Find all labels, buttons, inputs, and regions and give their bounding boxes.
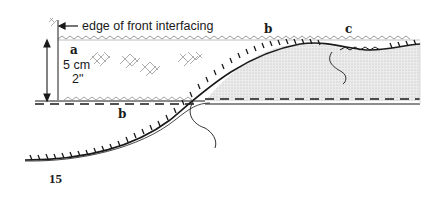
label-b-top: b: [264, 22, 272, 36]
sewing-diagram: edge of front interfacing a 5 cm 2" b c …: [0, 0, 439, 198]
figure-number: 15: [49, 171, 62, 187]
edge-pointer-arrow: [59, 23, 78, 29]
measurement-arrow: [44, 40, 50, 101]
label-b-bottom: b: [118, 107, 126, 121]
thread-tail-center: [190, 102, 216, 148]
label-a: a: [70, 43, 78, 57]
interfacing-hatch: [90, 52, 202, 76]
measurement-in-label: 2": [72, 72, 83, 86]
label-c: c: [345, 22, 352, 36]
diagram-illustration: [0, 0, 439, 198]
left-zigzag-stitch: [64, 97, 192, 100]
top-zigzag-stitch: [58, 36, 410, 39]
edge-of-front-interfacing-label: edge of front interfacing: [82, 19, 213, 33]
measurement-cm-label: 5 cm: [63, 58, 90, 72]
edge-hatch-mark: [49, 18, 57, 26]
facing-shaded-region: [205, 44, 420, 101]
